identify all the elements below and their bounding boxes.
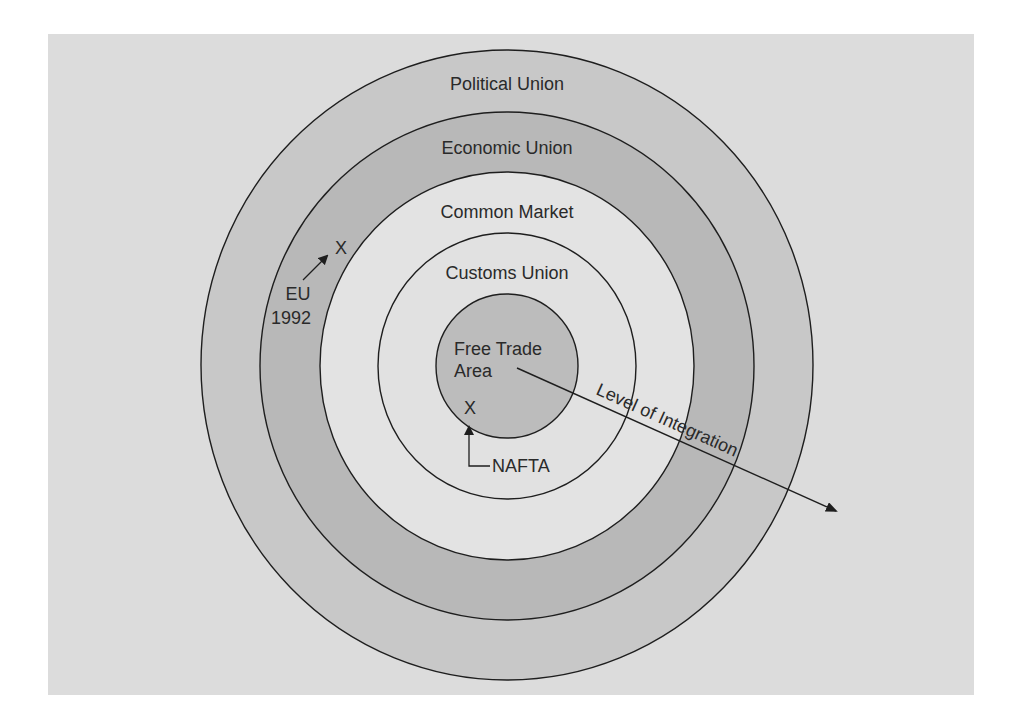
label-common-market: Common Market xyxy=(440,202,573,222)
marker-nafta-x: X xyxy=(464,398,476,418)
label-free-trade-area-line1: Free Trade xyxy=(454,339,542,359)
integration-diagram: Political Union Economic Union Common Ma… xyxy=(0,0,1024,715)
marker-nafta-label: NAFTA xyxy=(492,456,550,476)
label-political-union: Political Union xyxy=(450,74,564,94)
label-free-trade-area-line2: Area xyxy=(454,361,493,381)
marker-eu-label-line1: EU xyxy=(285,284,310,304)
marker-eu-x: X xyxy=(335,238,347,258)
label-customs-union: Customs Union xyxy=(445,263,568,283)
label-economic-union: Economic Union xyxy=(441,138,572,158)
marker-eu-label-line2: 1992 xyxy=(271,308,311,328)
